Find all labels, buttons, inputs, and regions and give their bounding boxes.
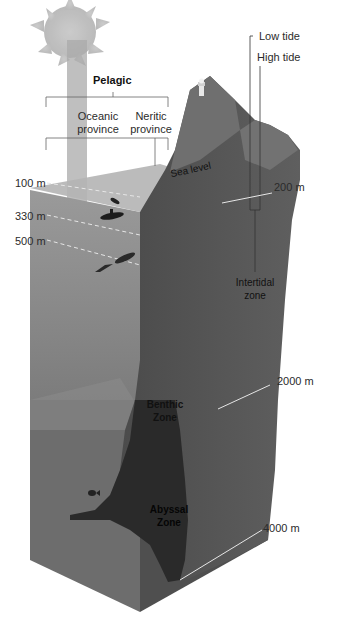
oceanic-line-2: province <box>72 123 124 136</box>
intertidal-line-1: Intertidal <box>228 276 282 289</box>
depth-200m-label: 200 m <box>274 181 305 194</box>
water-column-front <box>30 190 140 400</box>
intertidal-zone-label: Intertidal zone <box>228 276 282 302</box>
low-tide-label: Low tide <box>259 30 300 43</box>
neritic-line-2: province <box>128 123 174 136</box>
lighthouse-icon <box>198 79 205 97</box>
benthic-line-1: Benthic <box>140 398 190 411</box>
neritic-line-1: Neritic <box>128 110 174 123</box>
ocean-zone-diagram <box>0 0 337 637</box>
depth-500m-label: 500 m <box>15 235 46 248</box>
high-tide-label: High tide <box>257 51 300 64</box>
abyssal-line-2: Zone <box>144 516 194 529</box>
benthic-zone-label: Benthic Zone <box>140 398 190 424</box>
oceanic-line-1: Oceanic <box>72 110 124 123</box>
neritic-province-label: Neritic province <box>128 110 174 136</box>
abyssal-zone-label: Abyssal Zone <box>144 503 194 529</box>
depth-100m-label: 100 m <box>15 177 46 190</box>
oceanic-province-label: Oceanic province <box>72 110 124 136</box>
abyssal-line-1: Abyssal <box>144 503 194 516</box>
depth-4000m-label: 4000 m <box>263 522 300 535</box>
depth-2000m-label: 2000 m <box>277 375 314 388</box>
benthic-line-2: Zone <box>140 411 190 424</box>
intertidal-line-2: zone <box>228 289 282 302</box>
depth-330m-label: 330 m <box>15 210 46 223</box>
pelagic-label: Pelagic <box>93 74 132 87</box>
